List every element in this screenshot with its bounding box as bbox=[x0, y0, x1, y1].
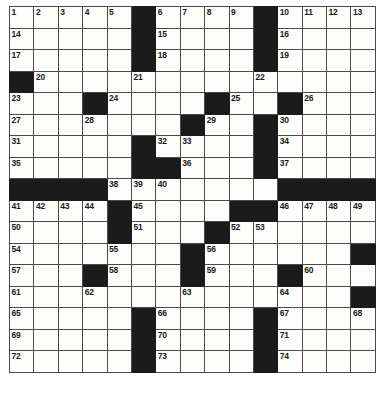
crossword-cell[interactable]: 56 bbox=[205, 243, 229, 265]
crossword-cell[interactable]: 41 bbox=[10, 200, 34, 222]
crossword-cell[interactable]: 39 bbox=[131, 179, 155, 201]
crossword-cell[interactable] bbox=[131, 114, 155, 136]
crossword-cell[interactable] bbox=[229, 114, 253, 136]
crossword-cell[interactable]: 37 bbox=[278, 157, 302, 179]
crossword-cell[interactable]: 57 bbox=[10, 265, 34, 287]
crossword-cell[interactable] bbox=[83, 136, 107, 158]
crossword-cell[interactable] bbox=[34, 222, 58, 244]
crossword-cell[interactable] bbox=[327, 93, 351, 115]
crossword-cell[interactable]: 2 bbox=[34, 7, 58, 29]
crossword-cell[interactable] bbox=[278, 222, 302, 244]
crossword-cell[interactable] bbox=[229, 28, 253, 50]
crossword-cell[interactable]: 50 bbox=[10, 222, 34, 244]
crossword-cell[interactable]: 60 bbox=[302, 265, 326, 287]
crossword-cell[interactable] bbox=[302, 351, 326, 373]
crossword-cell[interactable] bbox=[302, 329, 326, 351]
crossword-cell[interactable] bbox=[83, 243, 107, 265]
crossword-cell[interactable] bbox=[205, 71, 229, 93]
crossword-cell[interactable]: 29 bbox=[205, 114, 229, 136]
crossword-cell[interactable]: 65 bbox=[10, 308, 34, 330]
crossword-cell[interactable] bbox=[34, 136, 58, 158]
crossword-cell[interactable] bbox=[131, 243, 155, 265]
crossword-cell[interactable] bbox=[253, 286, 277, 308]
crossword-cell[interactable] bbox=[83, 157, 107, 179]
crossword-cell[interactable] bbox=[327, 329, 351, 351]
crossword-cell[interactable] bbox=[107, 351, 131, 373]
crossword-cell[interactable] bbox=[302, 286, 326, 308]
crossword-cell[interactable] bbox=[180, 329, 204, 351]
crossword-cell[interactable] bbox=[107, 157, 131, 179]
crossword-cell[interactable]: 44 bbox=[83, 200, 107, 222]
crossword-cell[interactable]: 28 bbox=[83, 114, 107, 136]
crossword-cell[interactable] bbox=[327, 136, 351, 158]
crossword-cell[interactable] bbox=[229, 329, 253, 351]
crossword-cell[interactable] bbox=[180, 50, 204, 72]
crossword-cell[interactable] bbox=[156, 265, 180, 287]
crossword-cell[interactable] bbox=[302, 114, 326, 136]
crossword-cell[interactable]: 5 bbox=[107, 7, 131, 29]
crossword-cell[interactable] bbox=[107, 28, 131, 50]
crossword-cell[interactable] bbox=[253, 179, 277, 201]
crossword-cell[interactable] bbox=[107, 136, 131, 158]
crossword-cell[interactable] bbox=[58, 50, 82, 72]
crossword-cell[interactable] bbox=[107, 329, 131, 351]
crossword-cell[interactable] bbox=[229, 179, 253, 201]
crossword-cell[interactable] bbox=[34, 28, 58, 50]
crossword-cell[interactable]: 58 bbox=[107, 265, 131, 287]
crossword-cell[interactable] bbox=[351, 329, 375, 351]
crossword-cell[interactable] bbox=[83, 71, 107, 93]
crossword-cell[interactable] bbox=[34, 157, 58, 179]
crossword-cell[interactable] bbox=[327, 286, 351, 308]
crossword-grid[interactable]: 1234567891011121314151617181920212223242… bbox=[9, 6, 376, 373]
crossword-cell[interactable] bbox=[180, 200, 204, 222]
crossword-cell[interactable] bbox=[205, 329, 229, 351]
crossword-cell[interactable] bbox=[253, 93, 277, 115]
crossword-cell[interactable] bbox=[229, 136, 253, 158]
crossword-cell[interactable]: 8 bbox=[205, 7, 229, 29]
crossword-cell[interactable]: 30 bbox=[278, 114, 302, 136]
crossword-cell[interactable]: 20 bbox=[34, 71, 58, 93]
crossword-cell[interactable] bbox=[351, 265, 375, 287]
crossword-cell[interactable] bbox=[58, 308, 82, 330]
crossword-cell[interactable]: 54 bbox=[10, 243, 34, 265]
crossword-cell[interactable] bbox=[156, 222, 180, 244]
crossword-cell[interactable] bbox=[327, 265, 351, 287]
crossword-cell[interactable] bbox=[58, 93, 82, 115]
crossword-cell[interactable]: 23 bbox=[10, 93, 34, 115]
crossword-cell[interactable]: 74 bbox=[278, 351, 302, 373]
crossword-cell[interactable] bbox=[327, 222, 351, 244]
crossword-cell[interactable] bbox=[83, 329, 107, 351]
crossword-cell[interactable] bbox=[351, 50, 375, 72]
crossword-cell[interactable] bbox=[58, 265, 82, 287]
crossword-cell[interactable] bbox=[34, 265, 58, 287]
crossword-cell[interactable] bbox=[327, 28, 351, 50]
crossword-cell[interactable] bbox=[229, 243, 253, 265]
crossword-cell[interactable]: 32 bbox=[156, 136, 180, 158]
crossword-cell[interactable] bbox=[302, 28, 326, 50]
crossword-cell[interactable] bbox=[58, 351, 82, 373]
crossword-cell[interactable] bbox=[351, 351, 375, 373]
crossword-cell[interactable]: 35 bbox=[10, 157, 34, 179]
crossword-cell[interactable]: 16 bbox=[278, 28, 302, 50]
crossword-cell[interactable]: 38 bbox=[107, 179, 131, 201]
crossword-cell[interactable] bbox=[278, 243, 302, 265]
crossword-cell[interactable]: 66 bbox=[156, 308, 180, 330]
crossword-cell[interactable] bbox=[34, 308, 58, 330]
crossword-cell[interactable] bbox=[327, 71, 351, 93]
crossword-cell[interactable] bbox=[83, 222, 107, 244]
crossword-cell[interactable] bbox=[180, 71, 204, 93]
crossword-cell[interactable] bbox=[327, 157, 351, 179]
crossword-cell[interactable]: 1 bbox=[10, 7, 34, 29]
crossword-cell[interactable]: 69 bbox=[10, 329, 34, 351]
crossword-cell[interactable] bbox=[351, 28, 375, 50]
crossword-cell[interactable]: 55 bbox=[107, 243, 131, 265]
crossword-cell[interactable]: 59 bbox=[205, 265, 229, 287]
crossword-cell[interactable] bbox=[351, 93, 375, 115]
crossword-cell[interactable] bbox=[156, 200, 180, 222]
crossword-cell[interactable] bbox=[351, 71, 375, 93]
crossword-cell[interactable] bbox=[34, 351, 58, 373]
crossword-cell[interactable]: 71 bbox=[278, 329, 302, 351]
crossword-cell[interactable]: 33 bbox=[180, 136, 204, 158]
crossword-cell[interactable] bbox=[58, 243, 82, 265]
crossword-cell[interactable] bbox=[205, 179, 229, 201]
